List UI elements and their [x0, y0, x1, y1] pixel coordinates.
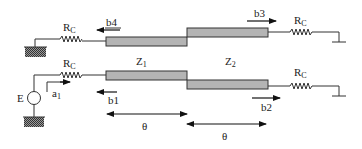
z1-label: Z1 — [136, 55, 147, 69]
rc-top-left-label: RC — [63, 21, 76, 35]
b3-label: b3 — [254, 7, 266, 19]
b2-label: b2 — [261, 101, 272, 113]
b1-label: b1 — [108, 94, 119, 106]
voltage-source-icon — [28, 92, 41, 105]
theta-label-2: θ — [222, 130, 227, 142]
top-circuit: RC RC b4 b3 — [24, 7, 346, 57]
z2-top-line — [187, 28, 268, 37]
resistor-top-left — [60, 36, 82, 42]
z1-top-line — [106, 37, 187, 46]
resistor-top-right — [290, 29, 312, 35]
theta-label-1: θ — [142, 120, 147, 132]
z2-label: Z2 — [225, 55, 236, 69]
a1-label: a1 — [52, 87, 61, 101]
bottom-circuit: RC RC E a1 b1 b2 — [17, 57, 346, 127]
b4-label: b4 — [106, 16, 118, 28]
rc-top-right-label: RC — [294, 14, 307, 28]
rc-bottom-left-label: RC — [63, 57, 76, 71]
ground-hatch-top-left — [25, 47, 46, 57]
resistor-bottom-left — [60, 72, 82, 78]
source-label: E — [17, 92, 24, 104]
wire-top-right-ground — [312, 32, 339, 42]
a1-arrow-bracket — [47, 82, 68, 92]
z2-bottom-line — [187, 80, 268, 89]
resistor-bottom-right — [290, 83, 312, 89]
rc-bottom-right-label: RC — [294, 66, 307, 80]
z1-bottom-line — [106, 71, 187, 80]
wire-bottom-right-ground — [312, 86, 339, 96]
wire-top-left — [35, 39, 60, 47]
circuit-diagram: RC RC b4 b3 Z1 Z2 RC RC — [0, 0, 362, 149]
ground-hatch-bottom-left — [24, 117, 44, 127]
